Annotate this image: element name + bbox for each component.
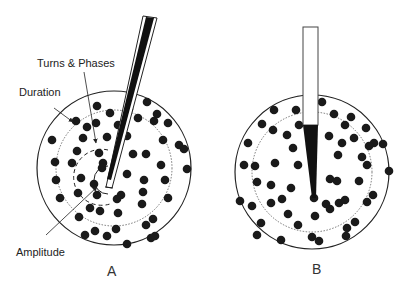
muscle-fiber-dot bbox=[318, 98, 327, 107]
monopolar-needle bbox=[303, 27, 318, 198]
muscle-fiber-dot bbox=[161, 176, 170, 185]
turns-phases-label: Turns & Phases bbox=[37, 57, 115, 69]
muscle-fiber-dot bbox=[334, 151, 343, 160]
muscle-fiber-dot bbox=[365, 142, 374, 151]
muscle-fiber-dot bbox=[73, 147, 82, 156]
muscle-fiber-dot bbox=[267, 199, 276, 208]
muscle-fiber-dot bbox=[362, 124, 371, 133]
muscle-fiber-dot bbox=[52, 176, 61, 185]
muscle-fiber-dot bbox=[294, 221, 303, 230]
muscle-fiber-dot bbox=[149, 215, 158, 224]
muscle-fiber-dot bbox=[86, 204, 95, 213]
panel-b-label: B bbox=[312, 261, 321, 277]
muscle-fiber-dot bbox=[114, 209, 123, 218]
muscle-fiber-dot bbox=[350, 134, 359, 143]
muscle-fiber-dot bbox=[150, 117, 159, 126]
muscle-fiber-dot bbox=[351, 218, 360, 227]
muscle-fiber-dot bbox=[284, 210, 293, 219]
motor-unit-diagram: Turns & Phases Duration Amplitude A B bbox=[0, 0, 405, 291]
muscle-fiber-dot bbox=[74, 189, 83, 198]
muscle-fiber-dot bbox=[355, 177, 364, 186]
muscle-fiber-dot bbox=[289, 144, 298, 153]
muscle-fiber-dot bbox=[295, 121, 304, 130]
muscle-fiber-dot bbox=[333, 177, 342, 186]
muscle-fiber-dot bbox=[56, 194, 65, 203]
muscle-fiber-dot bbox=[93, 191, 102, 200]
muscle-fiber-dot bbox=[51, 158, 60, 167]
muscle-fiber-dot bbox=[342, 232, 351, 241]
muscle-fiber-dot bbox=[164, 119, 173, 128]
muscle-fiber-dot bbox=[363, 161, 372, 170]
muscle-fiber-dot bbox=[77, 174, 86, 183]
muscle-fiber-dot bbox=[183, 165, 192, 174]
muscle-fiber-dot bbox=[123, 170, 132, 179]
muscle-fiber-dot bbox=[75, 213, 84, 222]
muscle-fiber-dot bbox=[358, 153, 367, 162]
muscle-fiber-dot bbox=[277, 236, 286, 245]
muscle-fiber-dot bbox=[164, 194, 173, 203]
muscle-fiber-dot bbox=[271, 159, 280, 168]
muscle-fiber-dot bbox=[270, 106, 279, 115]
muscle-fiber-dot bbox=[338, 139, 347, 148]
muscle-fiber-dot bbox=[139, 188, 148, 197]
muscle-fiber-dot bbox=[287, 184, 296, 193]
muscle-fiber-dot bbox=[106, 109, 115, 118]
muscle-fiber-dot bbox=[253, 231, 262, 240]
muscle-fiber-dot bbox=[81, 231, 90, 240]
muscle-fiber-dot bbox=[347, 113, 356, 122]
muscle-fiber-dot bbox=[91, 227, 100, 236]
muscle-fiber-dot bbox=[363, 198, 372, 207]
muscle-fiber-dot bbox=[294, 161, 303, 170]
muscle-fiber-dot bbox=[68, 159, 77, 168]
muscle-fiber-dot bbox=[96, 207, 105, 216]
muscle-fiber-dot bbox=[258, 120, 267, 129]
muscle-fiber-dot bbox=[112, 225, 121, 234]
muscle-fiber-dot bbox=[330, 110, 339, 119]
muscle-fiber-dot bbox=[325, 132, 334, 141]
muscle-fiber-dot bbox=[134, 114, 143, 123]
muscle-fiber-dot bbox=[244, 139, 253, 148]
muscle-fiber-dot bbox=[322, 200, 331, 209]
muscle-fiber-dot bbox=[341, 121, 350, 130]
muscle-fiber-dot bbox=[236, 197, 245, 206]
muscle-fiber-dot bbox=[369, 191, 378, 200]
muscle-fiber-dot bbox=[311, 212, 320, 221]
muscle-fiber-dot bbox=[138, 200, 147, 209]
muscle-fiber-dot bbox=[278, 195, 287, 204]
muscle-fiber-dot bbox=[269, 126, 278, 135]
muscle-fiber-dot bbox=[151, 232, 160, 241]
panel-a: Turns & Phases Duration Amplitude A bbox=[16, 16, 191, 279]
muscle-fiber-dot bbox=[379, 140, 388, 149]
muscle-fiber-dot bbox=[159, 136, 168, 145]
muscle-fiber-dot bbox=[90, 180, 99, 189]
muscle-fiber-dot bbox=[248, 202, 257, 211]
muscle-fiber-dot bbox=[240, 161, 249, 170]
muscle-fiber-dot bbox=[103, 232, 112, 241]
muscle-fiber-dot bbox=[48, 136, 57, 145]
muscle-fiber-dot bbox=[142, 150, 151, 159]
muscle-fiber-dot bbox=[83, 123, 92, 132]
muscle-fiber-dot bbox=[253, 178, 262, 187]
muscle-fiber-dot bbox=[292, 106, 301, 115]
muscle-fiber-dot bbox=[251, 162, 260, 171]
muscle-fiber-dot bbox=[267, 181, 276, 190]
muscle-fiber-dot bbox=[283, 131, 292, 140]
muscle-fiber-dot bbox=[95, 149, 104, 158]
muscle-fiber-dot bbox=[129, 150, 138, 159]
muscle-fiber-dot bbox=[257, 219, 266, 228]
muscle-fiber-dot bbox=[341, 196, 350, 205]
muscle-fiber-dot bbox=[142, 221, 151, 230]
panel-b: B bbox=[235, 27, 393, 277]
muscle-fiber-dot bbox=[72, 117, 81, 126]
muscle-fiber-dot bbox=[140, 176, 149, 185]
muscle-fiber-dot bbox=[157, 161, 166, 170]
muscle-fiber-dot bbox=[93, 102, 102, 111]
muscle-fiber-dot bbox=[385, 167, 394, 176]
muscle-fiber-dot bbox=[113, 195, 122, 204]
amplitude-label: Amplitude bbox=[16, 246, 65, 258]
muscle-fiber-dot bbox=[79, 134, 88, 143]
duration-label: Duration bbox=[19, 86, 61, 98]
muscle-fiber-dot bbox=[343, 224, 352, 233]
muscle-fiber-dot bbox=[123, 240, 132, 249]
muscle-fiber-dot bbox=[315, 237, 324, 246]
